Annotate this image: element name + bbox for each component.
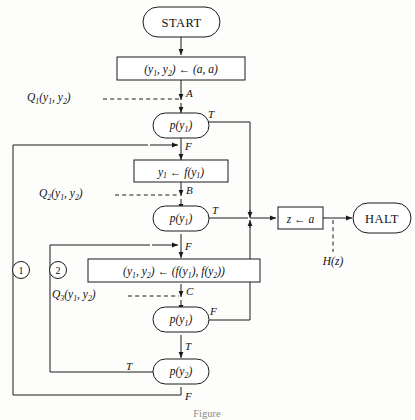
node-assign-z-label: z ← a xyxy=(286,213,315,225)
branch-label-testd-false: F xyxy=(184,390,192,402)
assertion-h-label: H(z) xyxy=(322,255,344,268)
node-halt[interactable]: HALT xyxy=(353,203,411,233)
svg-text:T: T xyxy=(126,360,133,372)
branch-label-testd-true: T xyxy=(126,360,133,372)
svg-text:F: F xyxy=(184,390,192,402)
node-halt-label: HALT xyxy=(365,212,399,226)
loop-badge-2: 2 xyxy=(50,262,67,279)
assertion-q3: Q3(y1, y2) xyxy=(52,288,96,303)
assertion-q2-label: Q2(y1, y2) xyxy=(39,187,83,202)
figure-caption: Figure xyxy=(193,408,221,419)
node-start-label: START xyxy=(162,16,202,30)
cut-point-b-label: B xyxy=(186,184,193,196)
cut-point-c-label: C xyxy=(186,285,194,297)
node-test-c[interactable]: p(y1) xyxy=(153,307,209,332)
branch-label-testb-false: F xyxy=(184,240,192,252)
branch-label-testa-true: T xyxy=(208,108,215,120)
node-assign-z[interactable]: z ← a xyxy=(278,207,323,229)
node-assign-f1[interactable]: y1 ← f(y1) xyxy=(134,160,228,182)
cut-point-b: B xyxy=(186,184,193,196)
flowchart-figure: START (y1, y2) ← (a, a) p(y1) y1 ← f(y1) xyxy=(0,0,415,420)
assertion-q3-label: Q3(y1, y2) xyxy=(52,288,96,303)
svg-text:F: F xyxy=(209,305,217,317)
assertion-q1-label: Q1(y1, y2) xyxy=(27,91,71,106)
cut-point-c: C xyxy=(186,285,194,297)
svg-text:T: T xyxy=(212,204,219,216)
branch-label-testa-false: F xyxy=(184,140,192,152)
svg-text:F: F xyxy=(184,240,192,252)
svg-text:2: 2 xyxy=(56,265,61,276)
node-test-a[interactable]: p(y1) xyxy=(153,113,209,138)
branch-label-testc-true: T xyxy=(185,340,192,352)
cut-point-a: A xyxy=(185,87,193,99)
loop-badge-1: 1 xyxy=(13,262,30,279)
node-assign-init[interactable]: (y1, y2) ← (a, a) xyxy=(117,57,245,80)
svg-text:Figure: Figure xyxy=(193,408,221,419)
cut-point-a-label: A xyxy=(185,87,193,99)
svg-text:T: T xyxy=(208,108,215,120)
svg-text:1: 1 xyxy=(19,265,24,276)
node-start[interactable]: START xyxy=(143,7,220,37)
node-assign-pair[interactable]: (y1, y2) ← (f(y1), f(y2)) xyxy=(88,259,260,282)
assertion-h: H(z) xyxy=(322,255,344,268)
assertion-q1: Q1(y1, y2) xyxy=(27,91,71,106)
svg-text:F: F xyxy=(184,140,192,152)
node-test-d[interactable]: p(y2) xyxy=(153,359,209,384)
assertion-q2: Q2(y1, y2) xyxy=(39,187,83,202)
branch-label-testb-true: T xyxy=(212,204,219,216)
node-test-b[interactable]: p(y1) xyxy=(153,206,209,231)
svg-text:T: T xyxy=(185,340,192,352)
branch-label-testc-false: F xyxy=(209,305,217,317)
